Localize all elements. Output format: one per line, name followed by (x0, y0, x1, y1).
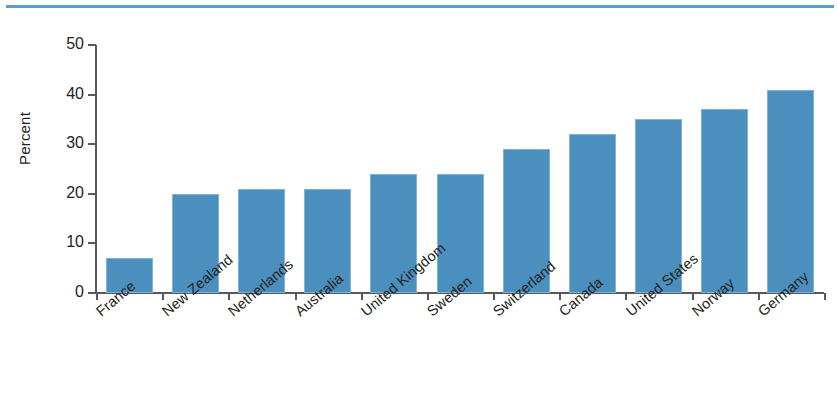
x-tick-label: France (93, 278, 138, 320)
x-tick-label: Netherlands (225, 256, 296, 319)
x-tick-label: Norway (689, 275, 737, 319)
chart-figure: Percent 01020304050 FranceNew ZealandNet… (0, 0, 837, 397)
x-tick-label: United States (623, 250, 701, 319)
x-tick-label: New Zealand (159, 251, 236, 319)
x-axis-labels: FranceNew ZealandNetherlandsAustraliaUni… (0, 0, 837, 397)
x-tick-label: Germany (755, 268, 812, 319)
x-tick-label: Canada (556, 274, 606, 319)
x-tick-label: Sweden (424, 273, 475, 319)
x-tick-label: Australia (292, 270, 346, 319)
x-tick-label: Switzerland (490, 258, 559, 319)
